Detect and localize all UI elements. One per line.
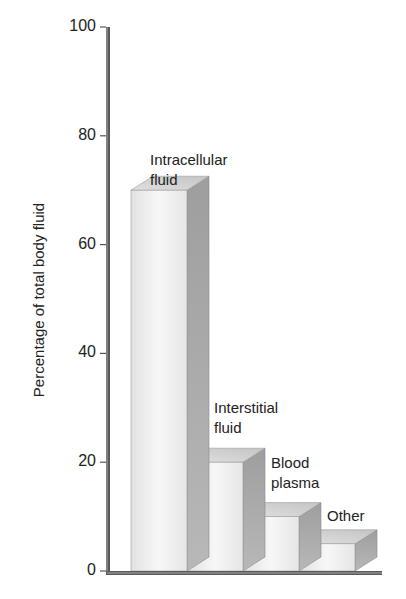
body-fluid-bar-chart: Percentage of total body fluid 0 20 40 6… [0,0,406,599]
y-axis-label: Percentage of total body fluid [30,203,47,397]
y-tick-0: 0 [56,561,96,579]
y-tick-60: 60 [56,235,96,253]
y-tick-20: 20 [56,452,96,470]
y-tick-40: 40 [56,343,96,361]
bar-0 [131,176,209,571]
y-tick-100: 100 [56,17,96,35]
bar-label-other: Other [327,506,365,526]
bar-label-intracellular: Intracellular fluid [150,150,228,190]
bar-label-interstitial: Interstitial fluid [214,398,278,438]
y-tick-80: 80 [56,126,96,144]
bar-label-blood-plasma: Blood plasma [271,453,319,493]
